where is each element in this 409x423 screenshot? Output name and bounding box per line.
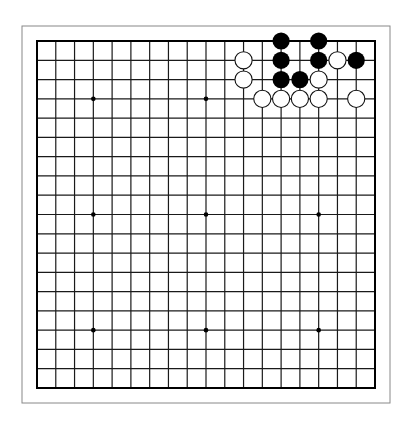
board-intersection[interactable] (215, 32, 234, 51)
board-intersection[interactable] (28, 379, 47, 398)
board-intersection[interactable] (328, 32, 347, 51)
board-intersection[interactable] (215, 205, 234, 224)
board-intersection[interactable] (234, 282, 253, 301)
board-intersection[interactable] (28, 89, 47, 108)
board-intersection[interactable] (328, 321, 347, 340)
board-intersection[interactable] (347, 224, 366, 243)
board-intersection[interactable] (84, 359, 103, 378)
board-intersection[interactable] (84, 109, 103, 128)
board-intersection[interactable] (122, 282, 141, 301)
board-intersection[interactable] (291, 340, 310, 359)
board-intersection[interactable] (272, 340, 291, 359)
board-intersection[interactable] (309, 224, 328, 243)
board-intersection[interactable] (122, 224, 141, 243)
board-intersection[interactable] (347, 340, 366, 359)
board-intersection[interactable] (253, 282, 272, 301)
board-intersections[interactable] (28, 32, 385, 398)
board-intersection[interactable] (253, 302, 272, 321)
board-intersection[interactable] (291, 282, 310, 301)
board-intersection[interactable] (159, 244, 178, 263)
board-intersection[interactable] (178, 32, 197, 51)
board-intersection[interactable] (328, 224, 347, 243)
board-intersection[interactable] (103, 379, 122, 398)
board-intersection[interactable] (366, 128, 385, 147)
board-intersection[interactable] (103, 147, 122, 166)
board-intersection[interactable] (309, 321, 328, 340)
board-intersection[interactable] (253, 340, 272, 359)
board-intersection[interactable] (159, 109, 178, 128)
board-intersection[interactable] (140, 70, 159, 89)
board-intersection[interactable] (347, 379, 366, 398)
board-intersection[interactable] (46, 263, 65, 282)
board-intersection[interactable] (178, 359, 197, 378)
board-intersection[interactable] (197, 32, 216, 51)
board-intersection[interactable] (309, 302, 328, 321)
board-intersection[interactable] (122, 89, 141, 108)
board-intersection[interactable] (28, 205, 47, 224)
board-intersection[interactable] (122, 340, 141, 359)
board-intersection[interactable] (253, 321, 272, 340)
board-intersection[interactable] (159, 51, 178, 70)
board-intersection[interactable] (65, 205, 84, 224)
board-intersection[interactable] (159, 89, 178, 108)
board-intersection[interactable] (46, 51, 65, 70)
board-intersection[interactable] (84, 379, 103, 398)
board-intersection[interactable] (46, 321, 65, 340)
board-intersection[interactable] (140, 167, 159, 186)
board-intersection[interactable] (46, 244, 65, 263)
board-intersection[interactable] (140, 51, 159, 70)
board-intersection[interactable] (140, 128, 159, 147)
board-intersection[interactable] (215, 302, 234, 321)
board-intersection[interactable] (347, 167, 366, 186)
board-intersection[interactable] (65, 379, 84, 398)
board-intersection[interactable] (122, 128, 141, 147)
board-intersection[interactable] (46, 167, 65, 186)
board-intersection[interactable] (215, 321, 234, 340)
board-intersection[interactable] (103, 89, 122, 108)
board-intersection[interactable] (103, 244, 122, 263)
board-intersection[interactable] (28, 263, 47, 282)
board-intersection[interactable] (215, 244, 234, 263)
board-intersection[interactable] (65, 128, 84, 147)
board-intersection[interactable] (366, 302, 385, 321)
board-intersection[interactable] (140, 147, 159, 166)
board-intersection[interactable] (159, 340, 178, 359)
board-intersection[interactable] (309, 244, 328, 263)
board-intersection[interactable] (178, 167, 197, 186)
go-board[interactable] (0, 0, 409, 423)
board-intersection[interactable] (159, 359, 178, 378)
board-intersection[interactable] (234, 147, 253, 166)
board-intersection[interactable] (234, 109, 253, 128)
board-intersection[interactable] (28, 32, 47, 51)
board-intersection[interactable] (46, 89, 65, 108)
board-intersection[interactable] (140, 359, 159, 378)
board-intersection[interactable] (84, 128, 103, 147)
board-intersection[interactable] (272, 244, 291, 263)
board-intersection[interactable] (28, 147, 47, 166)
board-intersection[interactable] (253, 379, 272, 398)
board-intersection[interactable] (178, 379, 197, 398)
board-intersection[interactable] (197, 186, 216, 205)
board-intersection[interactable] (159, 379, 178, 398)
board-intersection[interactable] (122, 186, 141, 205)
board-intersection[interactable] (234, 32, 253, 51)
board-intersection[interactable] (253, 263, 272, 282)
board-intersection[interactable] (328, 340, 347, 359)
board-intersection[interactable] (309, 109, 328, 128)
board-intersection[interactable] (366, 147, 385, 166)
board-intersection[interactable] (140, 302, 159, 321)
board-intersection[interactable] (122, 244, 141, 263)
board-intersection[interactable] (159, 128, 178, 147)
board-intersection[interactable] (253, 167, 272, 186)
board-intersection[interactable] (197, 340, 216, 359)
board-intersection[interactable] (328, 89, 347, 108)
board-intersection[interactable] (140, 282, 159, 301)
board-intersection[interactable] (234, 167, 253, 186)
board-intersection[interactable] (197, 70, 216, 89)
board-intersection[interactable] (291, 167, 310, 186)
board-intersection[interactable] (84, 186, 103, 205)
board-intersection[interactable] (46, 359, 65, 378)
board-intersection[interactable] (84, 147, 103, 166)
board-intersection[interactable] (178, 244, 197, 263)
board-intersection[interactable] (65, 32, 84, 51)
